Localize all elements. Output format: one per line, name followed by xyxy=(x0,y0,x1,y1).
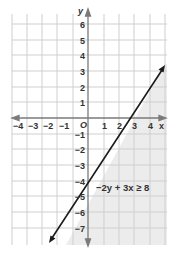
x-axis-label: x xyxy=(159,121,164,131)
x-tick-label: 1 xyxy=(102,121,107,131)
x-tick-label: −3 xyxy=(28,121,38,131)
y-tick-label: −1 xyxy=(75,130,85,140)
y-tick-label: 6 xyxy=(80,20,85,30)
y-tick-label: −6 xyxy=(75,208,85,218)
y-axis-label: y xyxy=(77,6,84,16)
x-tick-label: −1 xyxy=(59,121,69,131)
y-tick-label: −2 xyxy=(75,145,85,155)
origin-label: O xyxy=(80,120,87,130)
coordinate-graph: y x O −4 −3 −2 −1 1 2 3 4 6 5 4 3 2 1 −1… xyxy=(0,0,177,253)
x-tick-label: 3 xyxy=(132,121,137,131)
y-tick-label: 5 xyxy=(80,36,85,46)
arrowhead-bottom xyxy=(49,236,56,244)
y-tick-label: 2 xyxy=(80,83,85,93)
y-tick-label: −7 xyxy=(75,224,85,234)
y-tick-label: −3 xyxy=(75,161,85,171)
x-tick-label: −2 xyxy=(43,121,53,131)
x-tick-label: 2 xyxy=(117,121,122,131)
y-tick-label: 3 xyxy=(80,67,85,77)
inequality-label: −2y + 3x ≥ 8 xyxy=(96,182,149,193)
x-tick-label: 4 xyxy=(148,121,153,131)
x-tick-label: −4 xyxy=(13,121,23,131)
y-tick-label: 4 xyxy=(80,51,85,61)
y-tick-label: −4 xyxy=(75,177,85,187)
y-tick-label: −5 xyxy=(75,192,85,202)
y-tick-label: 1 xyxy=(80,98,85,108)
